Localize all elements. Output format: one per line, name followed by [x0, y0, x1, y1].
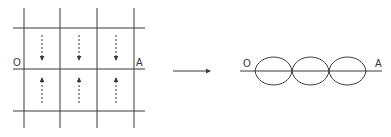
label-O-left: O	[13, 57, 21, 68]
wave-lobe-lower	[329, 71, 366, 85]
grid-vertical-lines	[24, 8, 134, 128]
grid-diagram: O A	[13, 8, 145, 128]
wave-lobe-upper	[292, 57, 329, 71]
up-arrows	[42, 78, 116, 103]
wave-lobe-upper	[329, 57, 366, 71]
label-O-right: O	[243, 58, 251, 69]
wave-lobe-upper	[255, 57, 292, 71]
label-A-right: A	[375, 58, 382, 69]
wave-lobe-lower	[255, 71, 292, 85]
label-A-left: A	[136, 57, 143, 68]
wave-lobe-lower	[292, 71, 329, 85]
diagram-canvas: O A O A	[0, 0, 391, 137]
down-arrows	[42, 35, 116, 60]
standing-wave-diagram: O A	[240, 57, 382, 85]
